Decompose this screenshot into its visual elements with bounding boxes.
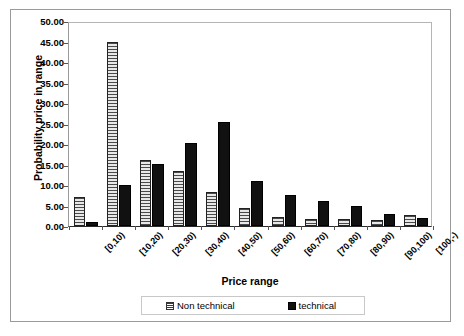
bar-non-technical: [74, 197, 86, 226]
plot-area: [68, 22, 432, 227]
x-axis-tick-label: [50,60): [269, 230, 296, 257]
hatched-square-icon: [166, 302, 174, 310]
bar-group: [102, 23, 135, 226]
x-axis-tick-label: [60,70): [302, 230, 329, 257]
bar-technical: [218, 122, 230, 226]
x-axis-tick-label: [70,80): [336, 230, 363, 257]
bar-technical: [86, 222, 98, 226]
x-axis-tick-label: [20,30): [170, 230, 197, 257]
y-axis-tick-label: 35.00: [26, 79, 64, 89]
chart-legend: Non technical technical: [141, 296, 365, 315]
y-axis-tick-label: 15.00: [26, 161, 64, 171]
bar-technical: [119, 185, 131, 226]
bar-non-technical: [206, 192, 218, 226]
bar-non-technical: [272, 217, 284, 226]
x-axis-tick-label: [80,90): [369, 230, 396, 257]
bar-group: [234, 23, 267, 226]
y-axis-tick-label: 20.00: [26, 140, 64, 150]
bar-non-technical: [173, 171, 185, 226]
bar-technical: [251, 181, 263, 226]
bar-group: [268, 23, 301, 226]
y-axis-tick-label: 40.00: [26, 58, 64, 68]
bar-non-technical: [305, 219, 317, 226]
x-axis-tick-label: [0,10): [102, 230, 126, 254]
legend-entry-non-technical: Non technical: [166, 300, 235, 311]
legend-label-technical: technical: [299, 300, 337, 311]
bars-layer: [69, 23, 431, 226]
bar-group: [334, 23, 367, 226]
y-axis-tick-label: 45.00: [26, 38, 64, 48]
bar-technical: [417, 218, 429, 226]
bar-technical: [285, 195, 297, 226]
bar-group: [301, 23, 334, 226]
y-axis-tick-label: 10.00: [26, 181, 64, 191]
bar-technical: [152, 164, 164, 226]
bar-group: [367, 23, 400, 226]
bar-group: [168, 23, 201, 226]
bar-group: [201, 23, 234, 226]
bar-non-technical: [107, 42, 119, 227]
y-axis-tick-labels: 0.005.0010.0015.0020.0025.0030.0035.0040…: [26, 22, 64, 227]
bar-group: [69, 23, 102, 226]
y-axis-tick-label: 30.00: [26, 99, 64, 109]
bar-technical: [318, 201, 330, 226]
x-axis-tick-labels: [0,10)[10,20)[20,30)[30,40)[40,50)[50,60…: [68, 228, 432, 274]
bar-non-technical: [371, 220, 383, 226]
x-axis-tick-label: [30,40): [203, 230, 230, 257]
x-axis-tick-mark: [433, 226, 434, 230]
legend-label-non-technical: Non technical: [177, 300, 235, 311]
bar-chart-figure: Probability price in range 0.005.0010.00…: [0, 0, 464, 336]
bar-technical: [185, 143, 197, 226]
x-axis-tick-label: [90,100): [403, 230, 434, 261]
y-axis-tick-label: 50.00: [26, 17, 64, 27]
y-axis-tick-label: 5.00: [26, 202, 64, 212]
bar-non-technical: [404, 215, 416, 226]
y-axis-tick-label: 0.00: [26, 222, 64, 232]
bar-non-technical: [338, 219, 350, 226]
y-axis-tick-label: 25.00: [26, 120, 64, 130]
x-axis-tick-label: [40,50): [236, 230, 263, 257]
x-axis-tick-label: [10,20): [137, 230, 164, 257]
bar-technical: [384, 214, 396, 226]
bar-non-technical: [239, 208, 251, 226]
filled-square-icon: [288, 302, 296, 310]
legend-entry-technical: technical: [288, 300, 337, 311]
bar-non-technical: [140, 160, 152, 226]
bar-technical: [351, 206, 363, 226]
bar-group: [400, 23, 433, 226]
x-axis-title: Price range: [68, 275, 432, 287]
bar-group: [135, 23, 168, 226]
